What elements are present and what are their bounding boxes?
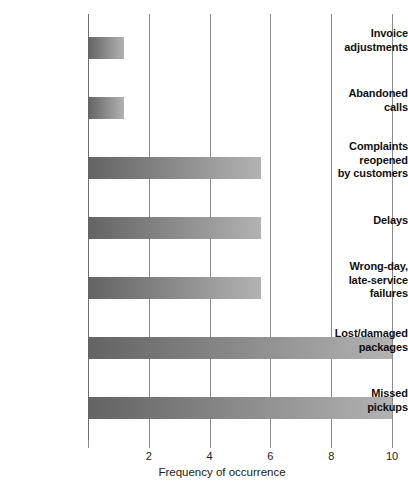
category-label-missed-pickups: Missed pickups bbox=[326, 387, 408, 414]
category-label-line: by customers bbox=[326, 167, 408, 181]
x-axis-title: Frequency of occurrence bbox=[0, 466, 408, 478]
category-label-line: Lost/damaged bbox=[326, 327, 408, 341]
bar-abandoned-calls bbox=[88, 97, 124, 119]
category-label-line: Missed bbox=[326, 387, 408, 401]
category-label-line: Abandoned bbox=[326, 87, 408, 101]
gridline-6 bbox=[270, 14, 271, 440]
category-label-delays: Delays bbox=[326, 214, 408, 228]
x-axis-title-text: Frequency of occurrence bbox=[158, 466, 285, 478]
category-label-line: Invoice bbox=[326, 27, 408, 41]
category-label-line: Delays bbox=[326, 214, 408, 228]
tick-label-8: 8 bbox=[328, 450, 334, 462]
category-label-line: adjustments bbox=[326, 41, 408, 55]
category-label-wrong-day-late-service: Wrong-day, late-service failures bbox=[326, 260, 408, 301]
tick-mark-10 bbox=[392, 440, 393, 448]
category-label-line: failures bbox=[326, 287, 408, 301]
tick-mark-8 bbox=[331, 440, 332, 448]
category-label-line: late-service bbox=[326, 274, 408, 288]
category-label-line: Wrong-day, bbox=[326, 260, 408, 274]
tick-mark-4 bbox=[210, 440, 211, 448]
tick-mark-6 bbox=[270, 440, 271, 448]
category-label-line: Complaints bbox=[326, 140, 408, 154]
category-label-line: packages bbox=[326, 341, 408, 355]
tick-label-4: 4 bbox=[207, 450, 213, 462]
bar-wrong-day-late-service bbox=[88, 277, 261, 299]
bar-delays bbox=[88, 217, 261, 239]
page-edge-artifact bbox=[0, 484, 408, 488]
category-label-line: reopened bbox=[326, 154, 408, 168]
category-label-lost-damaged-packages: Lost/damaged packages bbox=[326, 327, 408, 354]
category-label-invoice-adjustments: Invoice adjustments bbox=[326, 27, 408, 54]
category-label-abandoned-calls: Abandoned calls bbox=[326, 87, 408, 114]
category-label-line: pickups bbox=[326, 401, 408, 415]
bar-complaints-reopened bbox=[88, 157, 261, 179]
category-label-line: calls bbox=[326, 101, 408, 115]
bar-invoice-adjustments bbox=[88, 37, 124, 59]
tick-label-10: 10 bbox=[386, 450, 398, 462]
tick-mark-0 bbox=[88, 440, 89, 448]
tick-label-6: 6 bbox=[267, 450, 273, 462]
tick-mark-2 bbox=[149, 440, 150, 448]
tick-label-2: 2 bbox=[146, 450, 152, 462]
horizontal-bar-chart: Invoice adjustments Abandoned calls Comp… bbox=[0, 0, 408, 488]
category-label-complaints-reopened: Complaints reopened by customers bbox=[326, 140, 408, 181]
